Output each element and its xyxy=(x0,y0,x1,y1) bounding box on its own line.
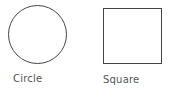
circle-label: Circle xyxy=(13,73,42,84)
square-shape xyxy=(103,8,162,64)
circle-shape xyxy=(8,5,67,64)
square-label: Square xyxy=(103,74,139,85)
